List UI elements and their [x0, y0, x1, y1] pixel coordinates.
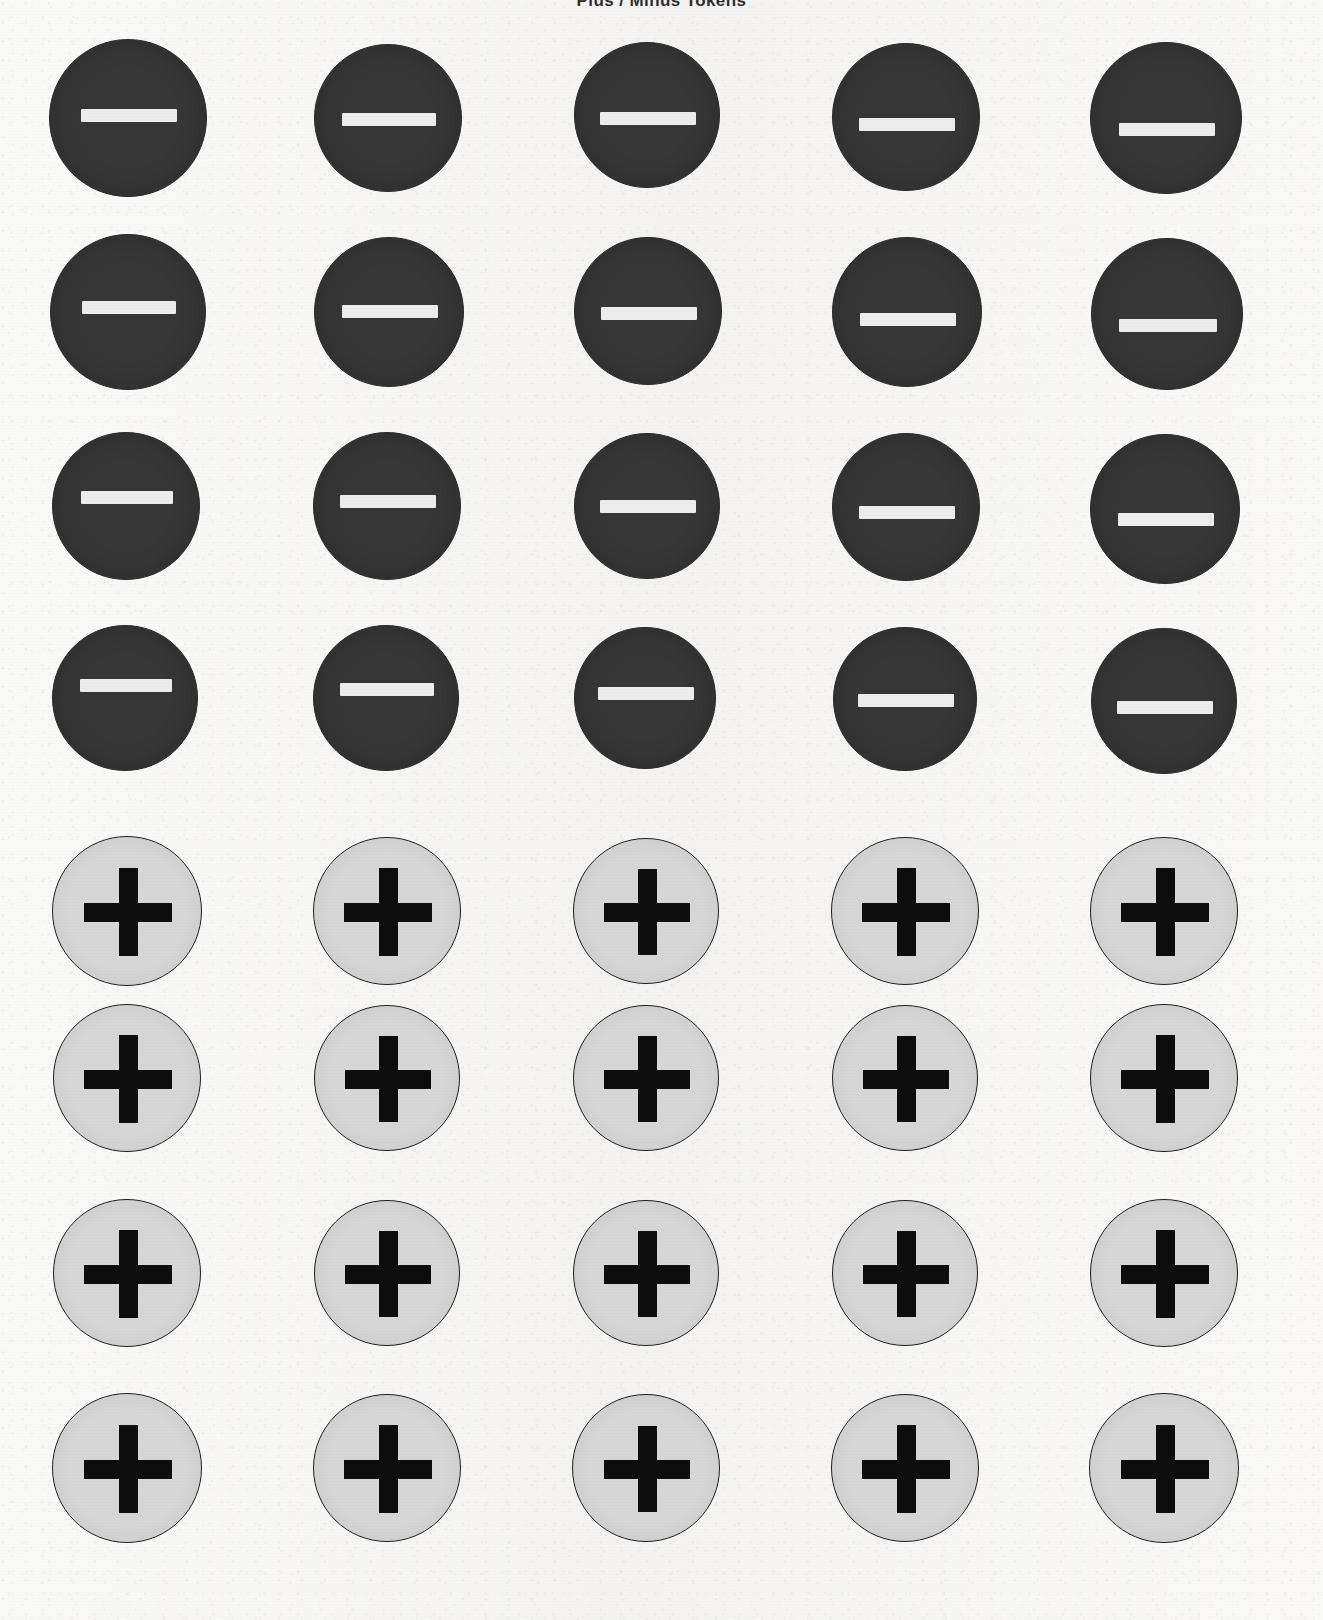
plus-icon	[574, 839, 718, 983]
token-plus-r5c1[interactable]	[52, 836, 202, 986]
plus-icon	[832, 1395, 978, 1541]
plus-icon	[315, 1006, 459, 1150]
plus-icon-vertical-arm	[1156, 1425, 1175, 1513]
plus-icon-vertical-arm	[638, 1231, 657, 1317]
plus-icon-vertical-arm	[1156, 868, 1175, 956]
plus-icon	[574, 1201, 718, 1345]
token-minus-r3c3[interactable]	[574, 433, 720, 579]
plus-icon	[574, 1006, 718, 1150]
plus-icon	[1090, 1394, 1238, 1542]
plus-icon-vertical-arm	[379, 868, 398, 956]
token-plus-r8c2[interactable]	[313, 1394, 461, 1542]
plus-icon-vertical-arm	[897, 1231, 916, 1317]
minus-icon	[1119, 319, 1217, 332]
token-minus-r2c3[interactable]	[574, 237, 722, 385]
plus-icon	[832, 838, 978, 984]
token-minus-r3c2[interactable]	[313, 432, 461, 580]
plus-icon	[1091, 838, 1237, 984]
token-plus-r7c1[interactable]	[53, 1199, 201, 1347]
token-minus-r4c2[interactable]	[313, 625, 459, 771]
minus-icon	[340, 495, 436, 508]
minus-icon	[598, 687, 694, 700]
token-plus-r5c4[interactable]	[831, 837, 979, 985]
minus-icon	[81, 491, 173, 504]
token-grid	[0, 0, 1323, 1620]
token-plus-r5c3[interactable]	[573, 838, 719, 984]
plus-icon-vertical-arm	[897, 1425, 916, 1513]
plus-icon-vertical-arm	[1156, 1035, 1175, 1123]
minus-icon	[600, 500, 696, 513]
plus-icon	[314, 1395, 460, 1541]
token-plus-r5c2[interactable]	[313, 837, 461, 985]
plus-icon-vertical-arm	[119, 1035, 138, 1123]
plus-icon-vertical-arm	[119, 1230, 138, 1318]
token-minus-r2c1[interactable]	[50, 234, 206, 390]
token-minus-r3c5[interactable]	[1090, 434, 1240, 584]
token-minus-r1c1[interactable]	[49, 39, 207, 197]
plus-icon	[54, 1005, 200, 1151]
minus-icon	[82, 301, 176, 314]
plus-icon	[1091, 1200, 1237, 1346]
token-minus-r3c4[interactable]	[832, 433, 980, 581]
token-plus-r6c5[interactable]	[1090, 1004, 1238, 1152]
token-plus-r5c5[interactable]	[1090, 837, 1238, 985]
token-plus-r7c3[interactable]	[573, 1200, 719, 1346]
minus-icon	[1117, 701, 1213, 714]
plus-icon-vertical-arm	[379, 1036, 398, 1122]
plus-icon	[314, 838, 460, 984]
token-minus-r2c4[interactable]	[832, 237, 982, 387]
token-plus-r7c2[interactable]	[314, 1200, 460, 1346]
plus-icon	[53, 1394, 201, 1542]
token-minus-r4c4[interactable]	[833, 627, 977, 771]
plus-icon-vertical-arm	[638, 1426, 657, 1512]
token-minus-r1c3[interactable]	[574, 42, 720, 188]
token-plus-r6c3[interactable]	[573, 1005, 719, 1151]
plus-icon	[53, 837, 201, 985]
token-plus-r8c1[interactable]	[52, 1393, 202, 1543]
token-plus-r8c5[interactable]	[1089, 1393, 1239, 1543]
token-plus-r6c4[interactable]	[832, 1005, 978, 1151]
plus-icon	[1091, 1005, 1237, 1151]
plus-icon	[833, 1006, 977, 1150]
token-minus-r4c5[interactable]	[1091, 628, 1237, 774]
plus-icon-vertical-arm	[119, 868, 138, 956]
token-minus-r4c3[interactable]	[574, 627, 716, 769]
minus-icon	[81, 109, 177, 122]
minus-icon	[1119, 123, 1215, 136]
minus-icon	[1118, 513, 1214, 526]
token-plus-r8c4[interactable]	[831, 1394, 979, 1542]
plus-icon-vertical-arm	[379, 1425, 398, 1513]
token-plus-r7c5[interactable]	[1090, 1199, 1238, 1347]
token-plus-r7c4[interactable]	[832, 1200, 978, 1346]
token-minus-r1c4[interactable]	[832, 43, 980, 191]
token-plus-r6c1[interactable]	[53, 1004, 201, 1152]
plus-icon-vertical-arm	[897, 868, 916, 956]
plus-icon	[833, 1201, 977, 1345]
plus-icon	[573, 1395, 719, 1541]
minus-icon	[860, 313, 956, 326]
token-minus-r4c1[interactable]	[52, 625, 198, 771]
minus-icon	[601, 307, 697, 320]
minus-icon	[600, 112, 696, 125]
plus-icon-vertical-arm	[119, 1425, 138, 1513]
minus-icon	[859, 506, 955, 519]
token-minus-r3c1[interactable]	[52, 432, 200, 580]
token-minus-r2c2[interactable]	[314, 237, 464, 387]
plus-icon	[54, 1200, 200, 1346]
minus-icon	[80, 679, 172, 692]
plus-icon-vertical-arm	[638, 1036, 657, 1122]
token-plus-r6c2[interactable]	[314, 1005, 460, 1151]
minus-icon	[342, 113, 436, 126]
token-minus-r2c5[interactable]	[1091, 238, 1243, 390]
plus-icon-vertical-arm	[379, 1231, 398, 1317]
token-plus-r8c3[interactable]	[572, 1394, 720, 1542]
plus-icon-vertical-arm	[638, 869, 657, 955]
minus-icon	[340, 683, 434, 696]
token-minus-r1c2[interactable]	[314, 44, 462, 192]
minus-icon	[342, 305, 438, 318]
minus-icon	[858, 694, 954, 707]
plus-icon-vertical-arm	[897, 1036, 916, 1122]
plus-icon	[315, 1201, 459, 1345]
plus-icon-vertical-arm	[1156, 1230, 1175, 1318]
token-minus-r1c5[interactable]	[1090, 42, 1242, 194]
